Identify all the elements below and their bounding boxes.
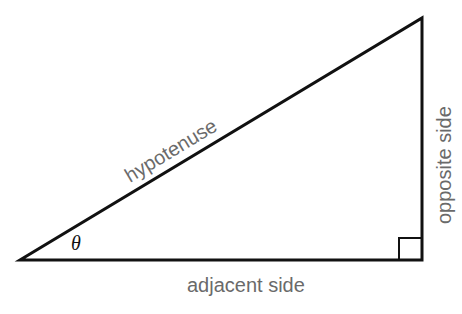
right-triangle-diagram: θ hypotenuse adjacent side opposite side [0, 0, 462, 314]
hypotenuse-label: hypotenuse [121, 114, 221, 186]
adjacent-side-label: adjacent side [187, 274, 305, 296]
right-angle-marker [399, 238, 422, 260]
triangle [20, 18, 422, 260]
opposite-side-label: opposite side [433, 106, 455, 224]
angle-theta-label: θ [71, 232, 81, 254]
